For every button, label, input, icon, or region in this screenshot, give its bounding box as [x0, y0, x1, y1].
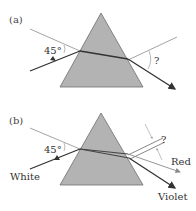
exit-angle-pointer-upper-b — [145, 124, 152, 138]
incident-angle-arc-b — [64, 143, 65, 151]
white-ray-label: White — [10, 171, 40, 182]
prism-b — [60, 113, 143, 185]
normal-line-exit-a — [128, 37, 177, 60]
incident-angle-arc-a — [64, 45, 65, 53]
exit-angle-pointer-lower-b — [157, 149, 162, 160]
prism-a — [60, 13, 143, 87]
exit-angle-arc-a — [148, 51, 151, 69]
incident-angle-label-b: 45° — [44, 144, 62, 155]
violet-ray-label: Violet — [157, 191, 187, 202]
red-ray-label: Red — [171, 156, 191, 167]
panel-a: (a) 45° ? — [9, 13, 177, 89]
panel-b: (b) 45° ? White Red Violet — [9, 113, 191, 202]
panel-b-label: (b) — [9, 115, 23, 126]
normal-line-exit-red-b — [128, 138, 163, 155]
prism-refraction-figure: (a) 45° ? (b) — [0, 0, 196, 211]
incident-angle-label-a: 45° — [44, 45, 62, 56]
incident-ray-arrow-a — [50, 56, 56, 61]
exit-angle-label-a: ? — [154, 55, 159, 66]
exit-angle-label-b: ? — [161, 134, 166, 145]
panel-a-label: (a) — [9, 14, 23, 25]
